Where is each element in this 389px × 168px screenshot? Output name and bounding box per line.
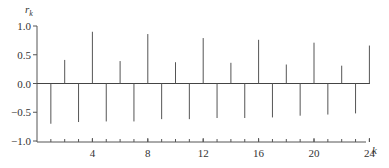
- y-tick-label: 0.0: [17, 78, 31, 90]
- axes: 1.00.50.0−0.5−1.04812162024: [11, 20, 375, 159]
- y-tick-label: 0.5: [17, 49, 31, 61]
- x-tick-label: 20: [309, 147, 321, 159]
- x-tick-label: 8: [145, 147, 151, 159]
- x-tick-label: 12: [198, 147, 209, 159]
- stems: [51, 32, 370, 124]
- y-axis-label: rk: [25, 3, 33, 18]
- y-tick-label: 1.0: [17, 20, 31, 32]
- y-tick-label: −0.5: [11, 106, 31, 118]
- x-axis-label: k: [372, 144, 378, 156]
- x-tick-label: 4: [90, 147, 96, 159]
- y-tick-label: −1.0: [11, 135, 31, 147]
- x-tick-label: 16: [253, 147, 265, 159]
- acf-stem-chart: 1.00.50.0−0.5−1.04812162024 rk k: [0, 0, 389, 168]
